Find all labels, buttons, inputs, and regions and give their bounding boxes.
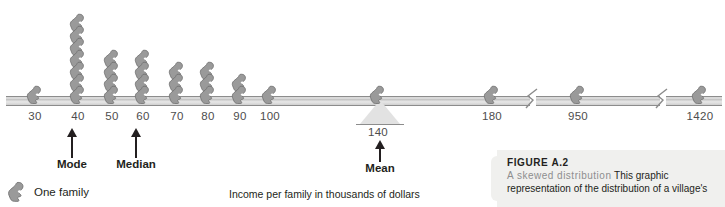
axis-tick-label-140: 140 bbox=[353, 126, 403, 138]
family-pictogram bbox=[132, 85, 154, 104]
mode-label: Mode bbox=[42, 158, 102, 170]
figure-caption-panel: FIGURE A.2 A skewed distribution This gr… bbox=[497, 150, 725, 207]
mean-arrow-icon bbox=[374, 140, 386, 162]
figure-caption-text: A skewed distribution This graphic repre… bbox=[507, 169, 719, 195]
family-pictogram bbox=[689, 85, 711, 104]
axis-tick-label-950: 950 bbox=[553, 110, 603, 122]
family-pictogram bbox=[101, 85, 123, 104]
family-pictogram bbox=[197, 85, 219, 104]
axis-title: Income per family in thousands of dollar… bbox=[229, 188, 420, 200]
axis-tick-label-180: 180 bbox=[467, 110, 517, 122]
axis-tick-label-1420: 1420 bbox=[675, 110, 725, 122]
mode-arrow-icon bbox=[66, 128, 78, 158]
legend-label: One family bbox=[34, 186, 89, 198]
axis-tick-label-100: 100 bbox=[245, 110, 295, 122]
family-pictogram bbox=[67, 85, 89, 104]
family-pictogram bbox=[166, 85, 188, 104]
family-pictogram bbox=[24, 85, 46, 104]
family-pictogram bbox=[367, 85, 389, 104]
mean-label: Mean bbox=[350, 162, 410, 174]
figure-number-label: FIGURE A.2 bbox=[507, 157, 719, 168]
number-line-segment-2 bbox=[536, 96, 660, 106]
median-label: Median bbox=[106, 158, 166, 170]
legend-one-family: One family bbox=[5, 181, 89, 202]
family-pictogram bbox=[567, 85, 589, 104]
mean-fulcrum-base bbox=[356, 124, 404, 125]
figure-canvas: 304050607080901001401809501420 Mode Medi… bbox=[0, 0, 725, 207]
figure-caption-lead-in: A skewed distribution bbox=[507, 170, 611, 181]
family-pictogram bbox=[259, 85, 281, 104]
median-arrow-icon bbox=[130, 128, 142, 158]
family-pictogram bbox=[481, 85, 503, 104]
person-icon bbox=[5, 181, 29, 202]
family-pictogram bbox=[229, 85, 251, 104]
